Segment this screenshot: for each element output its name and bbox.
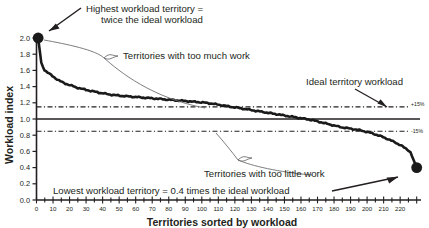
lowest-workload-point: [411, 162, 422, 173]
x-tick-label-9: 90: [182, 205, 189, 212]
x-tick-label-17: 170: [312, 205, 323, 212]
x-tick-label-7: 70: [149, 205, 156, 212]
x-axis-title: Territories sorted by workload: [147, 216, 297, 228]
x-tick-label-10: 100: [197, 205, 208, 212]
y-axis-title: Workload index: [3, 86, 15, 164]
x-tick-label-14: 140: [263, 205, 274, 212]
too-little-work-note: Territories with too little work: [204, 168, 325, 179]
x-tick-label-18: 180: [329, 205, 340, 212]
lowest-workload-note: Lowest workload territory = 0.4 times th…: [53, 185, 290, 196]
x-tick-label-1: 10: [50, 205, 57, 212]
y-tick-label-7: 1.4: [20, 82, 30, 91]
y-tick-label-0: 0.0: [20, 196, 30, 205]
x-tick-label-15: 150: [279, 205, 290, 212]
workload-index-chart: 0.0 0.2 0.4 0.6 0.8 1.0 1.2 1.4 1.6 1.8 …: [0, 0, 429, 228]
y-tick-label-10: 2.0: [20, 34, 30, 43]
x-tick-label-20: 200: [362, 205, 373, 212]
y-tick-label-2: 0.4: [20, 163, 30, 172]
x-tick-label-19: 190: [345, 205, 356, 212]
x-tick-label-6: 60: [132, 205, 139, 212]
y-tick-label-5: 1.0: [20, 115, 30, 124]
chart-canvas: 0.0 0.2 0.4 0.6 0.8 1.0 1.2 1.4 1.6 1.8 …: [0, 0, 429, 228]
y-tick-label-9: 1.8: [20, 50, 30, 59]
y-tick-label-4: 0.8: [20, 131, 30, 140]
too-much-work-note: Territories with too much work: [123, 50, 250, 61]
x-tick-label-0: 0: [35, 205, 39, 212]
highest-workload-note-line2: twice the ideal workload: [101, 14, 203, 25]
highest-workload-note-line1: Highest workload territory =: [86, 3, 203, 14]
y-tick-label-6: 1.2: [20, 98, 30, 107]
x-tick-label-2: 20: [66, 205, 73, 212]
x-tick-label-22: 220: [395, 205, 406, 212]
y-tick-label-1: 0.2: [20, 179, 30, 188]
minus-15-label: -15%: [411, 128, 423, 134]
x-tick-label-12: 120: [230, 205, 241, 212]
plus-15-label: +15%: [411, 101, 425, 107]
y-tick-label-3: 0.6: [20, 147, 30, 156]
x-tick-label-5: 50: [116, 205, 123, 212]
y-tick-label-8: 1.6: [20, 66, 30, 75]
highest-workload-point: [33, 33, 44, 44]
x-tick-label-11: 110: [213, 205, 223, 212]
x-tick-label-21: 210: [378, 205, 389, 212]
x-tick-label-3: 30: [83, 205, 90, 212]
x-tick-label-13: 130: [246, 205, 257, 212]
x-tick-label-8: 80: [165, 205, 172, 212]
x-tick-label-16: 160: [296, 205, 307, 212]
ideal-workload-note: Ideal territory workload: [306, 76, 403, 87]
x-tick-label-4: 40: [99, 205, 106, 212]
